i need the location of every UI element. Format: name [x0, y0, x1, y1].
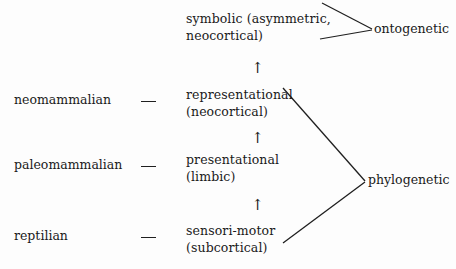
stage-representational-line2: (neocortical) [186, 104, 293, 121]
stage-symbolic-line2: neocortical) [186, 28, 331, 45]
stage-sensorimotor-line2: (subcortical) [186, 240, 275, 257]
connector-dash-neomammalian [141, 101, 156, 102]
group-label-ontogenetic: ontogenetic [374, 21, 449, 36]
group-label-phylogenetic: phylogenetic [368, 172, 450, 187]
diagram-canvas: neomammalian paleomammalian reptilian sy… [0, 0, 456, 269]
up-arrow-icon-presentational-to-representational: ↑ [251, 126, 264, 150]
stage-symbolic-line1: symbolic (asymmetric, [186, 11, 331, 26]
taxon-label-neomammalian: neomammalian [14, 92, 111, 107]
phylogenetic-bracket-lower-line [283, 182, 365, 243]
connector-dash-paleomammalian [141, 166, 156, 167]
stage-node-presentational: presentational (limbic) [186, 152, 279, 185]
stage-node-representational: representational (neocortical) [186, 87, 293, 120]
stage-node-sensorimotor: sensori-motor (subcortical) [186, 223, 275, 256]
taxon-label-reptilian: reptilian [14, 228, 68, 243]
stage-presentational-line1: presentational [186, 152, 279, 167]
taxon-label-paleomammalian: paleomammalian [14, 157, 122, 172]
stage-sensorimotor-line1: sensori-motor [186, 223, 275, 238]
stage-presentational-line2: (limbic) [186, 169, 279, 186]
up-arrow-icon-sensorimotor-to-presentational: ↑ [251, 193, 264, 217]
up-arrow-icon-representational-to-symbolic: ↑ [251, 56, 264, 80]
stage-node-symbolic: symbolic (asymmetric, neocortical) [186, 11, 331, 44]
stage-representational-line1: representational [186, 87, 293, 102]
connector-dash-reptilian [141, 237, 156, 238]
phylogenetic-bracket-upper-line [283, 88, 365, 181]
